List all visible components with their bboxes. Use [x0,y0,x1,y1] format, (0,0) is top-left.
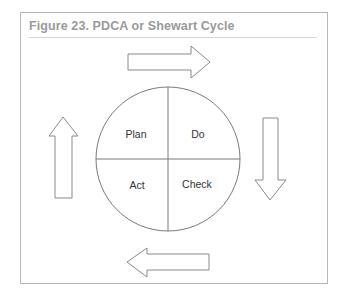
arrow-left-icon [127,248,209,277]
quadrant-check: Check [182,178,213,190]
quadrant-do: Do [191,128,205,140]
pdca-diagram: Plan Do Check Act [0,0,344,298]
arrow-right-icon [128,46,210,78]
arrow-up-icon [49,117,78,198]
arrow-down-icon [255,118,286,200]
quadrant-act: Act [129,179,144,191]
quadrant-plan: Plan [125,128,146,140]
pdca-circle: Plan Do Check Act [96,87,240,231]
